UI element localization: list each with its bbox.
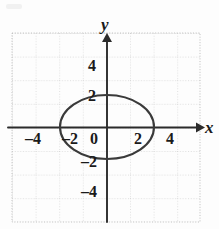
y-tick-label-neg2: –2 bbox=[81, 154, 97, 170]
graph-figure: x y –4 –2 0 2 4 4 2 –2 –4 bbox=[0, 0, 219, 229]
scan-artifact bbox=[6, 4, 22, 9]
x-tick-label-neg4: –4 bbox=[25, 131, 41, 147]
y-tick-label-2: 2 bbox=[88, 88, 96, 104]
x-tick-label-neg2: –2 bbox=[62, 131, 78, 147]
y-axis-label: y bbox=[101, 16, 109, 33]
origin-label: 0 bbox=[90, 131, 98, 147]
y-tick-label-4: 4 bbox=[88, 58, 96, 74]
x-axis-label: x bbox=[205, 119, 214, 136]
y-tick-label-neg4: –4 bbox=[81, 184, 97, 200]
x-tick-label-2: 2 bbox=[134, 131, 142, 147]
coordinate-plane-svg bbox=[0, 0, 219, 229]
x-tick-label-4: 4 bbox=[166, 131, 174, 147]
